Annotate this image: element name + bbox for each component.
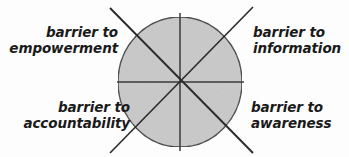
diagram-canvas: barrier to empowerment barrier to inform…	[0, 0, 349, 157]
label-line-2: information	[253, 40, 341, 56]
label-line-1: barrier to	[9, 24, 118, 40]
label-line-1: barrier to	[253, 24, 341, 40]
label-line-2: empowerment	[9, 40, 118, 56]
label-barrier-to-awareness: barrier to awareness	[251, 99, 331, 131]
label-line-1: barrier to	[23, 99, 130, 115]
label-line-2: accountability	[23, 115, 130, 131]
label-barrier-to-accountability: barrier to accountability	[23, 99, 130, 131]
label-line-2: awareness	[251, 115, 331, 131]
label-barrier-to-information: barrier to information	[253, 24, 341, 56]
label-barrier-to-empowerment: barrier to empowerment	[9, 24, 118, 56]
label-line-1: barrier to	[251, 99, 331, 115]
